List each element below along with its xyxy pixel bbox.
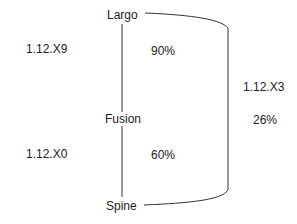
label-version-top-left: 1.12.X9	[26, 42, 67, 56]
edge-largo-spine-curve	[144, 13, 228, 205]
node-fusion: Fusion	[104, 112, 142, 126]
node-largo: Largo	[106, 8, 139, 22]
label-version-right: 1.12.X3	[243, 80, 284, 94]
node-spine: Spine	[105, 199, 138, 213]
diagram-edges	[0, 0, 297, 224]
label-percent-lower: 60%	[151, 148, 175, 162]
label-percent-right: 26%	[253, 113, 277, 127]
label-version-bottom-left: 1.12.X0	[26, 147, 67, 161]
label-percent-upper: 90%	[151, 44, 175, 58]
